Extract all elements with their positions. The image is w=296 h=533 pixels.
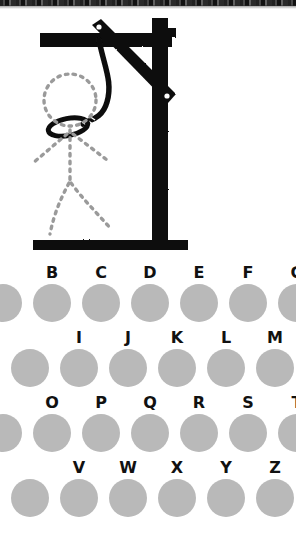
letter-key-disc-f[interactable] (229, 284, 267, 322)
letter-key-b[interactable]: B (33, 264, 71, 324)
letter-key-l[interactable]: L (207, 329, 245, 389)
letter-key-disc-l[interactable] (207, 349, 245, 387)
letter-key-q[interactable]: Q (131, 394, 169, 454)
letter-key-label-e: E (180, 264, 218, 282)
letter-key-v[interactable]: V (60, 459, 98, 519)
gallows-vertical-post (152, 18, 168, 246)
letter-row-3: UVWXYZ (0, 459, 296, 519)
hangman-rope (82, 40, 109, 128)
letter-key-label-v: V (60, 459, 98, 477)
letter-key-e[interactable]: E (180, 264, 218, 324)
letter-key-disc-p[interactable] (82, 414, 120, 452)
letter-key-g[interactable]: G (278, 264, 296, 324)
letter-key-disc-u[interactable] (11, 479, 49, 517)
letter-key-disc-j[interactable] (109, 349, 147, 387)
letter-key-label-i: I (60, 329, 98, 347)
letter-keyboard[interactable]: ABCDEFGHIJKLMNOPQRSTUVWXYZ (0, 262, 296, 533)
letter-key-disc-b[interactable] (33, 284, 71, 322)
letter-key-disc-a[interactable] (0, 284, 22, 322)
letter-key-disc-q[interactable] (131, 414, 169, 452)
letter-key-disc-y[interactable] (207, 479, 245, 517)
letter-key-disc-o[interactable] (33, 414, 71, 452)
letter-key-disc-k[interactable] (158, 349, 196, 387)
letter-key-u[interactable]: U (11, 459, 49, 519)
letter-key-c[interactable]: C (82, 264, 120, 324)
letter-key-label-f: F (229, 264, 267, 282)
letter-key-disc-m[interactable] (256, 349, 294, 387)
figure-right-leg (71, 183, 112, 230)
letter-key-disc-v[interactable] (60, 479, 98, 517)
gallows-illustration (0, 8, 296, 260)
letter-key-label-t: T (278, 394, 296, 412)
letter-key-disc-s[interactable] (229, 414, 267, 452)
letter-key-p[interactable]: P (82, 394, 120, 454)
gallows-base-plate (33, 240, 188, 250)
letter-key-label-g: G (278, 264, 296, 282)
letter-key-w[interactable]: W (109, 459, 147, 519)
letter-key-disc-g[interactable] (278, 284, 296, 322)
letter-key-label-s: S (229, 394, 267, 412)
letter-key-x[interactable]: X (158, 459, 196, 519)
letter-key-disc-r[interactable] (180, 414, 218, 452)
letter-key-a[interactable]: A (0, 264, 22, 324)
letter-key-label-q: Q (131, 394, 169, 412)
letter-key-label-w: W (109, 459, 147, 477)
letter-key-label-d: D (131, 264, 169, 282)
figure-left-leg (50, 183, 69, 234)
hangman-game-screen: ABCDEFGHIJKLMNOPQRSTUVWXYZ (0, 0, 296, 533)
letter-key-h[interactable]: H (11, 329, 49, 389)
letter-key-label-l: L (207, 329, 245, 347)
letter-key-disc-d[interactable] (131, 284, 169, 322)
letter-key-disc-t[interactable] (278, 414, 296, 452)
letter-key-o[interactable]: O (33, 394, 71, 454)
letter-key-f[interactable]: F (229, 264, 267, 324)
letter-key-label-b: B (33, 264, 71, 282)
letter-key-label-r: R (180, 394, 218, 412)
letter-key-r[interactable]: R (180, 394, 218, 454)
letter-key-label-k: K (158, 329, 196, 347)
letter-key-disc-x[interactable] (158, 479, 196, 517)
letter-key-t[interactable]: T (278, 394, 296, 454)
letter-key-label-x: X (158, 459, 196, 477)
letter-key-disc-z[interactable] (256, 479, 294, 517)
letter-key-disc-c[interactable] (82, 284, 120, 322)
letter-row-1: HIJKLM (0, 329, 296, 389)
letter-key-label-o: O (33, 394, 71, 412)
letter-key-j[interactable]: J (109, 329, 147, 389)
letter-key-label-j: J (109, 329, 147, 347)
letter-key-label-y: Y (207, 459, 245, 477)
letter-key-m[interactable]: M (256, 329, 294, 389)
letter-row-0: ABCDEFG (0, 264, 296, 324)
letter-key-disc-w[interactable] (109, 479, 147, 517)
stick-figure-outline (33, 74, 112, 234)
letter-key-i[interactable]: I (60, 329, 98, 389)
letter-key-label-p: P (82, 394, 120, 412)
letter-key-n[interactable]: N (0, 394, 22, 454)
figure-left-arm (33, 134, 67, 163)
letter-key-label-c: C (82, 264, 120, 282)
letter-key-disc-i[interactable] (60, 349, 98, 387)
letter-key-label-z: Z (256, 459, 294, 477)
letter-key-d[interactable]: D (131, 264, 169, 324)
letter-row-2: NOPQRST (0, 394, 296, 454)
letter-key-s[interactable]: S (229, 394, 267, 454)
letter-key-disc-e[interactable] (180, 284, 218, 322)
figure-right-arm (73, 134, 107, 160)
letter-key-label-m: M (256, 329, 294, 347)
letter-key-disc-h[interactable] (11, 349, 49, 387)
letter-key-z[interactable]: Z (256, 459, 294, 519)
letter-key-k[interactable]: K (158, 329, 196, 389)
letter-key-disc-n[interactable] (0, 414, 22, 452)
letter-key-y[interactable]: Y (207, 459, 245, 519)
